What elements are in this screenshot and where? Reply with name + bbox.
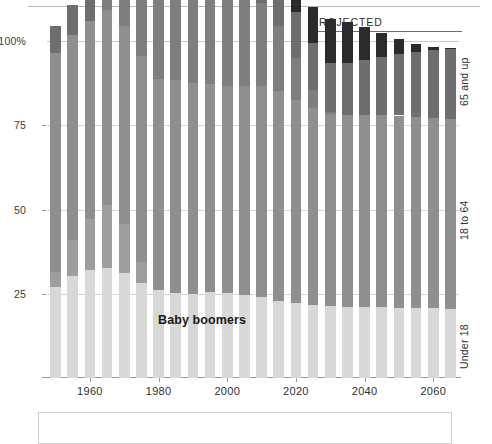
bar-segment-boomer_child <box>119 224 130 273</box>
bar-segment-under18 <box>325 306 336 378</box>
bar-segment-under18 <box>359 307 370 378</box>
bar-segment-boomer_senior <box>325 19 336 63</box>
chart-plot-area <box>47 41 459 378</box>
bar-segment-senior <box>85 0 96 21</box>
bar-segment-senior <box>273 0 284 26</box>
bar-segment-adult <box>273 91 284 301</box>
bar-segment-under18 <box>50 287 61 378</box>
bar-segment-adult <box>376 115 387 307</box>
bar-segment-adult <box>428 118 439 309</box>
bar-segment-boomer <box>291 58 302 100</box>
bar-segment-boomer_senior <box>394 39 405 54</box>
bar-segment-under18 <box>222 293 233 378</box>
y-tick-label-75: 75 <box>14 120 26 131</box>
bar-segment-senior <box>67 5 78 36</box>
x-tick-label-1960: 1960 <box>77 385 103 397</box>
category-label-under-18: Under 18 <box>458 324 470 369</box>
bar-segment-boomer_child <box>102 205 113 268</box>
x-tick-2020 <box>296 378 297 382</box>
bar-segment-adult <box>50 53 61 272</box>
bar-2020[interactable] <box>291 41 302 378</box>
bar-segment-boomer_senior <box>445 48 456 49</box>
bar-2030[interactable] <box>325 41 336 378</box>
bar-segment-under18 <box>205 292 216 378</box>
bar-2025[interactable] <box>308 41 319 378</box>
bar-segment-under18 <box>188 294 199 378</box>
bar-segment-senior <box>256 0 267 3</box>
bar-2040[interactable] <box>359 41 370 378</box>
bar-segment-boomer <box>325 112 336 114</box>
bar-segment-adult <box>170 80 181 292</box>
y-tick-75 <box>42 125 46 126</box>
bar-1975[interactable] <box>136 41 147 378</box>
baby-boomers-annotation: Baby boomers <box>158 313 246 327</box>
bar-1980[interactable] <box>153 41 164 378</box>
bar-2045[interactable] <box>376 41 387 378</box>
bar-segment-boomer_senior <box>411 44 422 52</box>
bar-segment-adult <box>445 119 456 309</box>
bar-1970[interactable] <box>119 41 130 378</box>
bar-segment-adult <box>119 26 130 225</box>
bar-1955[interactable] <box>67 41 78 378</box>
bar-segment-under18 <box>273 301 284 378</box>
bar-segment-under18 <box>411 308 422 378</box>
bar-segment-boomer_senior <box>291 0 302 12</box>
bar-segment-boomer_senior <box>308 7 319 43</box>
bar-segment-senior <box>359 60 370 115</box>
category-label-18-to-64: 18 to 64 <box>458 200 470 240</box>
bar-1965[interactable] <box>102 41 113 378</box>
bar-2050[interactable] <box>394 41 405 378</box>
bar-segment-senior <box>308 43 319 90</box>
bar-segment-under18 <box>119 273 130 378</box>
bar-segment-under18 <box>256 297 267 378</box>
bar-segment-under18 <box>136 283 147 378</box>
bar-segment-under18 <box>85 270 96 378</box>
bar-segment-boomer <box>188 0 199 83</box>
bar-segment-under18 <box>445 309 456 378</box>
bar-segment-adult <box>222 86 233 293</box>
bar-2055[interactable] <box>411 41 422 378</box>
bar-segment-adult <box>411 117 422 308</box>
bar-segment-adult <box>136 56 147 262</box>
bar-2060[interactable] <box>428 41 439 378</box>
bar-2005[interactable] <box>239 41 250 378</box>
y-tick-label-50: 50 <box>14 205 26 216</box>
bar-segment-boomer_senior <box>376 33 387 57</box>
bottom-panel <box>38 412 452 444</box>
bar-segment-boomer_senior <box>359 27 370 59</box>
bar-segment-under18 <box>67 276 78 378</box>
bar-2000[interactable] <box>222 41 233 378</box>
x-tick-2000 <box>227 378 228 382</box>
bar-segment-adult <box>67 35 78 239</box>
bar-2035[interactable] <box>342 41 353 378</box>
bar-1960[interactable] <box>85 41 96 378</box>
bar-segment-adult <box>256 86 267 298</box>
bar-segment-boomer <box>136 0 147 56</box>
bar-segment-boomer <box>308 90 319 108</box>
bar-segment-boomer_child <box>85 219 96 270</box>
bar-segment-adult <box>85 21 96 219</box>
bar-segment-senior <box>50 26 61 54</box>
bar-1950[interactable] <box>50 41 61 378</box>
bar-segment-adult <box>153 79 164 290</box>
bar-1990[interactable] <box>188 41 199 378</box>
bar-1985[interactable] <box>170 41 181 378</box>
bar-segment-boomer <box>153 0 164 79</box>
bar-1995[interactable] <box>205 41 216 378</box>
bar-2015[interactable] <box>273 41 284 378</box>
bar-segment-senior <box>325 63 336 112</box>
bar-segment-adult <box>291 100 302 303</box>
x-tick-label-2040: 2040 <box>352 385 378 397</box>
bar-segment-boomer_child <box>67 240 78 276</box>
x-tick-label-2020: 2020 <box>283 385 309 397</box>
x-tick-2040 <box>365 378 366 382</box>
bar-segment-senior <box>445 48 456 118</box>
bar-2010[interactable] <box>256 41 267 378</box>
bar-segment-under18 <box>239 295 250 378</box>
y-tick-50 <box>42 210 46 211</box>
bar-segment-boomer_senior <box>342 22 353 63</box>
bar-segment-under18 <box>153 290 164 378</box>
bar-segment-adult <box>325 114 336 305</box>
bar-2065[interactable] <box>445 41 456 378</box>
bar-segment-adult <box>239 86 250 295</box>
